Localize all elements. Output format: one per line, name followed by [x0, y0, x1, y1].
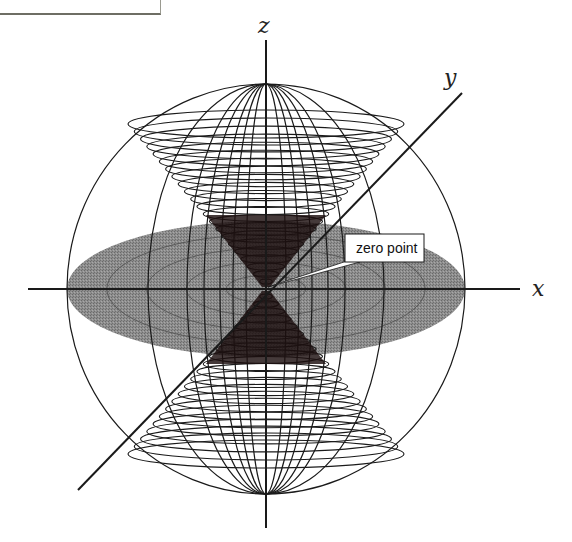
z-axis-label: z	[257, 13, 270, 38]
sphere-zero-point-diagram: z y x zero point	[0, 0, 572, 542]
x-axis-label: x	[532, 276, 545, 301]
zero-point-label: zero point	[356, 240, 418, 256]
y-axis-label: y	[443, 65, 457, 90]
